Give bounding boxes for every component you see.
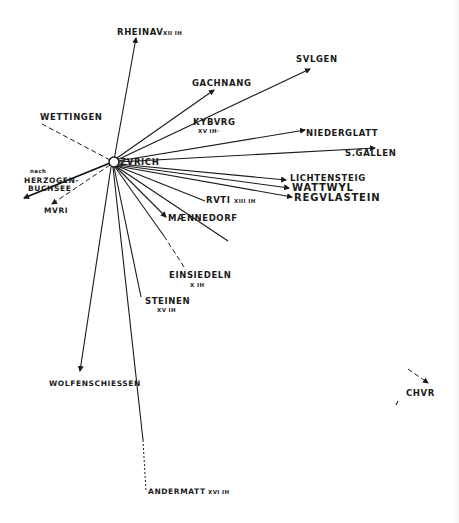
edge-einsiedeln-dash bbox=[164, 236, 186, 270]
sublabel-rvti: XIII IH bbox=[234, 198, 256, 204]
label-gachnang: GACHNANG bbox=[192, 78, 252, 88]
label-wettingen: WETTINGEN bbox=[40, 112, 103, 122]
label-kybvrg: KYBVRG bbox=[193, 117, 236, 127]
label-herzogen-prefix: nach bbox=[30, 168, 46, 174]
sublabel-rheinau: XII IH bbox=[163, 30, 182, 36]
diagram-canvas: RHEINAV XII IH GACHNANG SVLGEN KYBVRG XV… bbox=[0, 0, 459, 523]
label-wolfenschiessen: WOLFENSCHIESSEN bbox=[49, 379, 141, 388]
labels: RHEINAV XII IH GACHNANG SVLGEN KYBVRG XV… bbox=[24, 27, 435, 496]
sublabel-andermatt: XVI IH bbox=[208, 489, 230, 495]
label-niederglatt: NIEDERGLATT bbox=[306, 128, 378, 138]
edge-andermatt bbox=[113, 167, 143, 440]
edge-chvr bbox=[408, 369, 428, 383]
label-steinen: STEINEN bbox=[145, 296, 190, 306]
edges bbox=[24, 38, 428, 492]
edge-steinen bbox=[114, 167, 141, 297]
label-chvr: CHVR bbox=[406, 388, 435, 398]
label-maennedorf: MÆNNEDORF bbox=[168, 213, 238, 223]
label-einsiedeln: EINSIEDELN bbox=[169, 270, 232, 280]
sublabel-steinen: XV IH bbox=[157, 307, 176, 313]
label-sgallen: S.GALLEN bbox=[345, 148, 396, 158]
edge-rheinau bbox=[114, 38, 136, 160]
sublabel-kybvrg: XV IH· bbox=[198, 128, 220, 134]
edge-andermatt-dot bbox=[143, 440, 146, 492]
edge-wolfenschiessen bbox=[80, 167, 111, 371]
edge-chvr-stub bbox=[396, 401, 398, 405]
label-svlgen: SVLGEN bbox=[296, 54, 338, 64]
label-regvlastein: REGVLASTEIN bbox=[294, 192, 380, 203]
center-node-zurich bbox=[109, 157, 119, 167]
scan-edge bbox=[453, 0, 459, 523]
label-zurich: ZVRICH bbox=[120, 157, 159, 167]
sublabel-einsiedeln: X IH bbox=[190, 282, 204, 288]
edge-regvlastein bbox=[117, 166, 292, 197]
edge-wettingen bbox=[42, 124, 110, 160]
label-mvri: MVRI bbox=[44, 206, 68, 215]
label-rheinau: RHEINAV bbox=[117, 27, 164, 37]
route-diagram: RHEINAV XII IH GACHNANG SVLGEN KYBVRG XV… bbox=[0, 0, 459, 523]
edge-einsiedeln bbox=[115, 167, 164, 236]
label-herzogen-2: BUCHSEE bbox=[28, 184, 71, 193]
label-rvti: RVTI bbox=[206, 195, 230, 205]
label-andermatt: ANDERMATT bbox=[148, 487, 206, 496]
edge-maennedorf bbox=[116, 167, 166, 217]
